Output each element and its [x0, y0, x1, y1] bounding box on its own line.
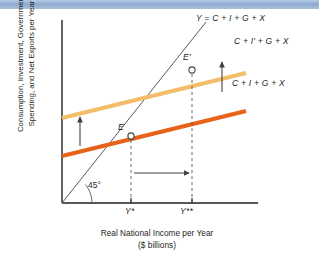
- point-eprime-label: E′: [183, 52, 191, 63]
- shifted-expenditure-line: [62, 73, 246, 118]
- xtick-label-ystar: Y*: [125, 206, 134, 217]
- economics-figure: Y = C + I + G + X C + I′ + G + X C + I +…: [0, 0, 319, 258]
- point-e-label: E: [118, 122, 124, 133]
- xtick-label-ystarstar: Y**: [180, 206, 193, 217]
- angle-label: 45°: [88, 180, 101, 191]
- expenditure-line: [62, 111, 246, 156]
- y-axis-label: Consumption, Investment, Government Spen…: [15, 0, 38, 133]
- point-eprime-marker: [189, 67, 195, 73]
- point-e-marker: [128, 133, 134, 139]
- expenditure-label: C + I + G + X: [232, 78, 285, 89]
- x-axis-label-line1: Real National Income per Year: [62, 228, 252, 240]
- x-axis-label-line2: ($ billions): [62, 240, 252, 252]
- x-axis-label: Real National Income per Year ($ billion…: [62, 228, 252, 251]
- shifted-expenditure-label: C + I′ + G + X: [234, 36, 289, 47]
- y-line-label: Y = C + I + G + X: [196, 13, 265, 24]
